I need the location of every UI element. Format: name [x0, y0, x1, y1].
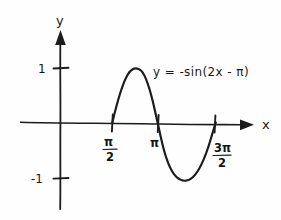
function-plot-svg: y x 1 -1 π 2 π 3π 2 y = -sin(2x - π) [0, 0, 281, 220]
y-axis-arrow-up-icon [55, 30, 66, 45]
x-axis-arrow-right-icon [240, 119, 254, 130]
x-axis-line [21, 122, 244, 125]
x-tick-label-3pi-over-2-denominator: 2 [218, 156, 226, 170]
equation-label: y = -sin(2x - π) [153, 65, 249, 79]
x-tick-label-pi: π [150, 136, 159, 150]
x-tick-label-3pi-over-2-numerator: 3π [214, 141, 231, 155]
y-tick-mark-minus1 [54, 178, 69, 179]
y-tick-label-minus1: -1 [31, 172, 43, 186]
y-tick-mark-1 [54, 68, 69, 69]
x-tick-label-pi-over-2-denominator: 2 [106, 150, 114, 164]
x-axis-label: x [262, 117, 270, 132]
y-tick-label-1: 1 [38, 62, 46, 76]
x-tick-label-pi-over-2-numerator: π [104, 135, 113, 149]
graph-figure: y x 1 -1 π 2 π 3π 2 y = -sin(2x - π) [0, 0, 281, 220]
y-axis-label: y [56, 13, 64, 28]
